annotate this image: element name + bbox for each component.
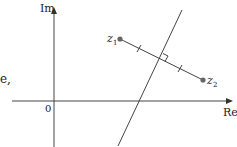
point-z2 [200, 77, 205, 82]
z2-label-subscript: 2 [213, 81, 217, 89]
z1-label: z 1 [106, 32, 117, 47]
z1-label-name: z [106, 32, 113, 45]
z2-label: z 2 [206, 74, 217, 89]
re-axis-label: Re [223, 106, 237, 119]
perpendicular-bisector [118, 10, 182, 146]
complex-plane-diagram: Im 0 Re e, z 1 z 2 [0, 0, 237, 147]
im-axis-label: Im [40, 2, 55, 15]
partial-text: e, [0, 72, 11, 86]
z1-label-subscript: 1 [113, 39, 117, 47]
real-axis-arrow-icon [226, 98, 233, 104]
diagram-svg: Im 0 Re e, z 1 z 2 [0, 0, 237, 147]
segment-z1-z2 [120, 39, 203, 80]
point-z1 [117, 36, 122, 41]
origin-label: 0 [45, 103, 51, 114]
z2-label-name: z [206, 74, 213, 87]
tick-mark-1 [137, 45, 141, 52]
